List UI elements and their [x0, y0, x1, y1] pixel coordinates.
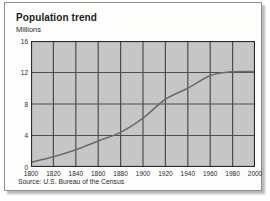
y-tick-label-12: 12: [12, 69, 28, 76]
chart-figure: Population trend Millions 04812161800182…: [4, 2, 262, 191]
y-tick-label-8: 8: [12, 101, 28, 108]
axis-tick-layer: 0481216180018201840186018801900192019401…: [5, 3, 263, 192]
x-tick-label-2000: 2000: [242, 170, 268, 177]
y-tick-label-4: 4: [12, 132, 28, 139]
source-note: Source: U.S. Bureau of the Census: [18, 178, 124, 185]
y-tick-label-16: 16: [12, 38, 28, 45]
